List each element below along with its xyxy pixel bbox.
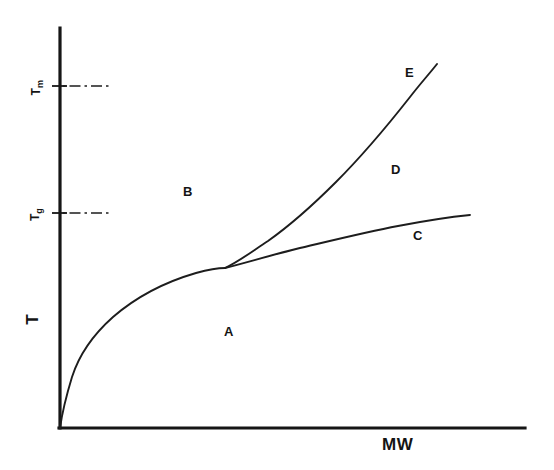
plot-canvas — [0, 0, 554, 470]
region-label-e: E — [405, 66, 414, 79]
tick-label-tg: Tg — [29, 208, 44, 221]
region-label-c: C — [413, 229, 423, 242]
tick-label-tg-subscript: g — [34, 208, 44, 214]
curve-common-lower-branch — [60, 268, 225, 428]
region-label-a: A — [224, 325, 234, 338]
curve-lower-branch-c — [225, 215, 470, 268]
figure-root: Tm Tg T MW A B C D E — [0, 0, 554, 470]
x-axis-title: MW — [382, 436, 413, 453]
curve-upper-branch-e — [225, 64, 437, 268]
region-label-b: B — [183, 185, 193, 198]
tick-label-tm: Tm — [30, 80, 45, 95]
tick-label-tm-subscript: m — [35, 80, 45, 88]
region-label-d: D — [391, 163, 401, 176]
y-axis-title: T — [24, 314, 41, 324]
tick-label-tg-symbol: T — [28, 214, 42, 221]
tick-label-tm-symbol: T — [29, 88, 43, 95]
